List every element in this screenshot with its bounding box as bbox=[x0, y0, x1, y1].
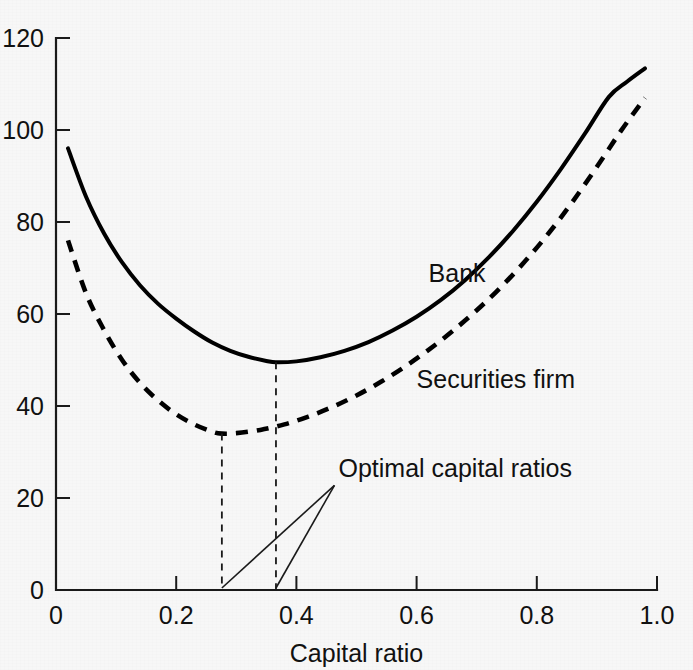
y-tick-label: 20 bbox=[16, 484, 44, 512]
x-tick-label: 1.0 bbox=[640, 601, 675, 629]
y-tick-label: 60 bbox=[16, 300, 44, 328]
annotations: Optimal capital ratios bbox=[338, 454, 571, 482]
chart-background bbox=[0, 0, 693, 670]
chart-figure: 02040608010012000.20.40.60.81.0 BankSecu… bbox=[0, 0, 693, 670]
chart-canvas: 02040608010012000.20.40.60.81.0 BankSecu… bbox=[0, 0, 693, 670]
x-tick-label: 0 bbox=[49, 601, 63, 629]
x-tick-label: 0.2 bbox=[159, 601, 194, 629]
x-axis-title: Capital ratio bbox=[290, 639, 423, 667]
y-tick-label: 120 bbox=[2, 24, 44, 52]
y-tick-label: 100 bbox=[2, 116, 44, 144]
x-tick-label: 0.6 bbox=[399, 601, 434, 629]
annotation-text: Optimal capital ratios bbox=[338, 454, 571, 482]
series-label-securities-firm: Securities firm bbox=[417, 365, 575, 393]
y-tick-label: 80 bbox=[16, 208, 44, 236]
y-tick-label: 0 bbox=[30, 576, 44, 604]
x-tick-label: 0.8 bbox=[519, 601, 554, 629]
y-tick-label: 40 bbox=[16, 392, 44, 420]
series-label-bank: Bank bbox=[429, 259, 486, 287]
x-tick-label: 0.4 bbox=[279, 601, 314, 629]
